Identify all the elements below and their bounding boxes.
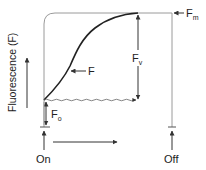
y-axis-label: Fluorescence (F) <box>6 33 18 112</box>
off-label: Off <box>164 153 179 165</box>
fm-label: Fm <box>186 7 199 21</box>
fluorescence-diagram: Fm F Fv Fo On Off Fluorescence (F) <box>0 0 206 170</box>
f-curve-label: F <box>88 65 95 77</box>
fo-label: Fo <box>51 108 62 122</box>
frame-outline <box>44 13 172 127</box>
fluorescence-curve <box>44 13 138 100</box>
fo-wavy-line <box>44 99 136 101</box>
on-label: On <box>36 153 51 165</box>
